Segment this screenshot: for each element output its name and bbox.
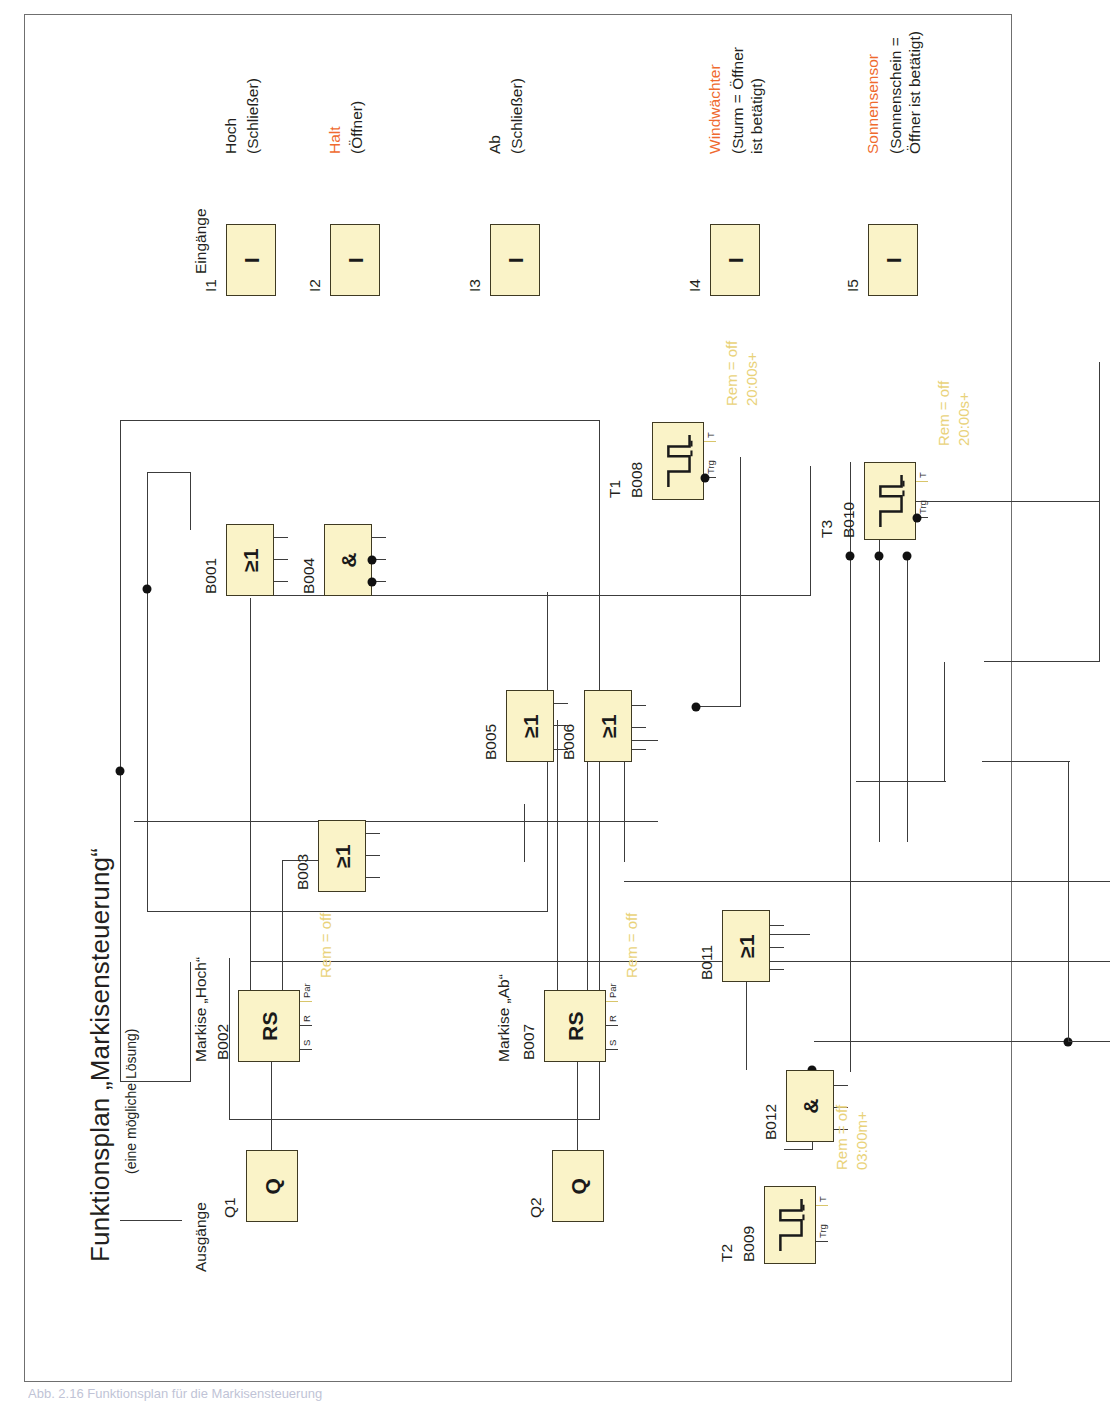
block-B004-glyph: & — [338, 552, 359, 568]
block-B011-pin-1 — [770, 969, 784, 970]
input-label-I5-name: Sonnensensor — [864, 54, 881, 154]
block-B003-pin-2 — [366, 855, 380, 856]
block-B007-pinlabel-R: R — [608, 1015, 619, 1022]
wire — [120, 420, 121, 1082]
block-B001-pin-2 — [274, 559, 288, 560]
block-B010-id: B010 — [840, 502, 857, 538]
wire — [740, 457, 741, 707]
input-label-I2-detail: (Öffner) — [348, 101, 365, 154]
output-block-Q2-glyph: Q — [568, 1178, 589, 1195]
output-block-Q1-glyph: Q — [262, 1178, 283, 1195]
wire — [907, 556, 908, 842]
block-B002-id: B002 — [214, 1024, 231, 1060]
input-label-I3-detail: (Schließer) — [508, 78, 525, 154]
block-B003-id: B003 — [294, 854, 311, 890]
block-B008-pin-T — [704, 441, 716, 442]
block-B009-pinlabel-Trg: Trg — [818, 1224, 829, 1238]
input-block-I2-glyph: I — [345, 257, 366, 263]
block-B006-pin-3 — [632, 705, 646, 706]
wire — [577, 1062, 578, 1150]
block-B010[interactable] — [864, 462, 916, 540]
input-block-I2[interactable]: I — [330, 224, 380, 296]
wire — [587, 730, 588, 990]
wire — [984, 661, 1100, 662]
input-label-I1-detail: (Schließer) — [244, 78, 261, 154]
block-B007-id: B007 — [520, 1024, 537, 1060]
block-B008-param-line1: Rem = off — [724, 341, 741, 406]
block-B002-glyph: RS — [259, 1011, 280, 1041]
figure-caption: Abb. 2.16 Funktionsplan für die Markisen… — [28, 1386, 1008, 1402]
input-label-I1-name: Hoch — [222, 118, 239, 154]
input-label-I3-name: Ab — [486, 135, 503, 154]
block-B005-pin-3 — [554, 703, 568, 704]
block-B007[interactable]: RS — [544, 990, 606, 1062]
wire — [624, 821, 658, 822]
block-B001[interactable]: ≥1 — [226, 524, 274, 596]
block-B001-id: B001 — [202, 558, 219, 594]
block-B004[interactable]: & — [324, 524, 372, 596]
block-B009-pinlabel-T: T — [818, 1196, 829, 1202]
output-block-Q1[interactable]: Q — [246, 1150, 298, 1222]
junction-dot — [368, 578, 377, 587]
wire — [120, 420, 600, 421]
wire — [856, 781, 946, 782]
block-B009-tag: T2 — [718, 1244, 735, 1262]
wire — [1099, 362, 1100, 502]
block-B008-id: B008 — [628, 462, 645, 498]
block-B002-pinlabel-Par: Par — [302, 983, 313, 998]
block-B012-pin-3 — [834, 1085, 848, 1086]
block-B006-id: B006 — [560, 724, 577, 760]
block-B008-pinlabel-Trg: Trg — [706, 460, 717, 474]
output-block-Q2-id: Q2 — [527, 1197, 544, 1218]
input-block-I5-glyph: I — [883, 257, 904, 263]
block-B012-id: B012 — [762, 1104, 779, 1140]
wire — [982, 761, 1070, 762]
block-B003[interactable]: ≥1 — [318, 820, 366, 892]
block-B011[interactable]: ≥1 — [722, 910, 770, 982]
wire — [229, 1119, 599, 1120]
wire — [624, 881, 1110, 882]
page-subtitle: (eine mögliche Lösung) — [124, 1028, 140, 1174]
wire — [810, 466, 811, 596]
wire — [250, 598, 251, 990]
block-B007-pin-R — [606, 1025, 618, 1026]
block-B003-pin-3 — [366, 833, 380, 834]
input-block-I3[interactable]: I — [490, 224, 540, 296]
junction-dot — [846, 552, 855, 561]
block-B004-pin-3 — [372, 537, 386, 538]
page-title: Funktionsplan „Markisensteuerung“ — [86, 848, 115, 1262]
block-B008[interactable] — [652, 422, 704, 500]
input-block-I3-glyph: I — [505, 257, 526, 263]
input-block-I1-id: I1 — [202, 279, 219, 292]
input-block-I1[interactable]: I — [226, 224, 276, 296]
block-B005[interactable]: ≥1 — [506, 690, 554, 762]
block-B010-pin-T — [916, 481, 928, 482]
block-B011-glyph: ≥1 — [736, 934, 757, 958]
function-block-diagram: Funktionsplan „Markisensteuerung“ (eine … — [24, 14, 1012, 1382]
input-block-I5[interactable]: I — [868, 224, 918, 296]
input-block-I2-id: I2 — [306, 279, 323, 292]
block-B009-id: B009 — [740, 1226, 757, 1262]
section-label-inputs: Eingänge — [192, 208, 209, 274]
block-B009[interactable] — [764, 1186, 816, 1264]
block-B005-id: B005 — [482, 724, 499, 760]
block-B012[interactable]: & — [786, 1070, 834, 1142]
block-B011-pin-2 — [770, 947, 784, 948]
input-label-I4-name: Windwächter — [706, 64, 723, 154]
block-B002-pin-S — [300, 1049, 312, 1050]
block-B002[interactable]: RS — [238, 990, 300, 1062]
block-B012-glyph: & — [800, 1098, 821, 1114]
block-B001-pin-3 — [274, 537, 288, 538]
junction-dot — [903, 552, 912, 561]
input-block-I1-glyph: I — [241, 257, 262, 263]
block-B005-glyph: ≥1 — [520, 714, 541, 738]
wire — [190, 472, 191, 530]
block-B009-pin-Trg — [816, 1241, 828, 1242]
group-label-markise-hoch: Markise „Hoch“ — [192, 957, 209, 1062]
output-block-Q2[interactable]: Q — [552, 1150, 604, 1222]
section-label-outputs: Ausgänge — [192, 1202, 209, 1272]
input-block-I4[interactable]: I — [710, 224, 760, 296]
wire — [904, 501, 1100, 502]
timer-icon — [765, 1187, 815, 1263]
block-B006[interactable]: ≥1 — [584, 690, 632, 762]
